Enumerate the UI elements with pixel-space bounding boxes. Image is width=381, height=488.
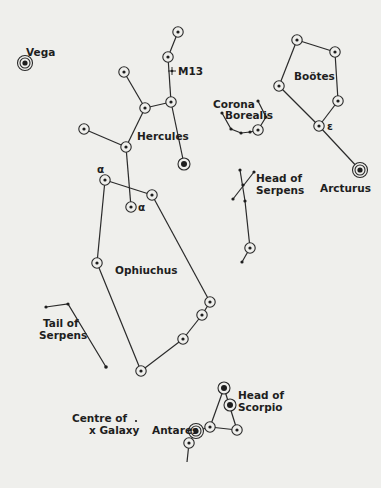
head-serpens-label-line1: Head of	[256, 172, 302, 184]
corona-label-line2: Borealis	[225, 109, 273, 121]
galaxy-centre-marker	[135, 420, 137, 422]
head-scorpio-label-line1: Head of	[238, 389, 284, 401]
ophiuchus-label: Ophiuchus	[115, 264, 177, 276]
head-serpens-label-line2: Serpens	[256, 184, 304, 196]
bootes-constellation	[274, 35, 368, 178]
m13-label: M13	[178, 65, 203, 77]
bootes-label: Boötes	[294, 70, 335, 82]
arcturus-label: Arcturus	[320, 182, 371, 194]
star-chart: Vega M13 Hercules α	[0, 0, 381, 488]
tail-serpens-label-line1: Tail of	[43, 317, 79, 329]
epsilon-label: ε	[327, 120, 333, 132]
hercules-label: Hercules	[137, 130, 189, 142]
galaxy-centre-label-line2: x Galaxy	[89, 424, 140, 436]
hercules-constellation	[79, 27, 190, 212]
alpha-ophiuchus-label: α	[97, 163, 104, 175]
tail-serpens-label-line2: Serpens	[39, 329, 87, 341]
vega-label: Vega	[26, 46, 55, 58]
head-of-serpens-constellation	[231, 168, 255, 263]
head-of-scorpio-constellation	[184, 382, 242, 462]
head-scorpio-label-line2: Scorpio	[238, 401, 283, 413]
antares-label: Antares	[152, 424, 198, 436]
galaxy-centre-label-line1: Centre of	[72, 412, 127, 424]
alpha-hercules-label: α	[138, 201, 145, 213]
